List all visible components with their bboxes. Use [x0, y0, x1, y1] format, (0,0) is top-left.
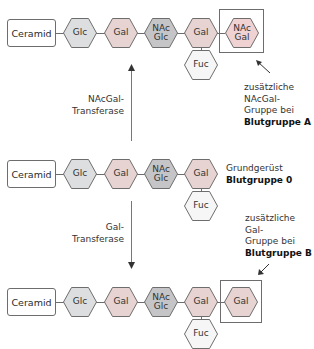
- note-blood-group-label: Blutgruppe 0: [226, 175, 292, 185]
- gal-hexagon: Gal: [224, 287, 258, 317]
- ceramid-label: Ceramid: [11, 28, 51, 39]
- glycosidic-bond: [217, 33, 225, 34]
- glc-hexagon: Glc: [63, 159, 97, 189]
- nacgal-hexagon: NAcGal: [225, 18, 259, 48]
- note-blood-group-label: Blutgruppe B: [245, 248, 312, 258]
- fuc-hexagon: Fuc: [184, 191, 218, 221]
- note-text: NAcGal-: [244, 94, 311, 106]
- sugar-label: Gal: [194, 297, 209, 307]
- note-text: Grundgerüst: [226, 163, 292, 175]
- nacglc-hexagon: NAcGlc: [144, 287, 178, 317]
- sugar-label: Glc: [73, 28, 87, 38]
- sugar-label: Fuc: [193, 329, 208, 339]
- ceramid-label: Ceramid: [11, 297, 51, 308]
- note-text: zusätzliche: [244, 82, 311, 94]
- sugar-label: Gal: [114, 297, 129, 307]
- fuc-hexagon: Fuc: [184, 50, 218, 80]
- ceramid-box: Ceramid: [7, 160, 56, 188]
- ceramid-label: Ceramid: [11, 169, 51, 180]
- sugar-label: Fuc: [193, 201, 208, 211]
- enzyme-label-b: Gal- Transferase: [50, 222, 124, 245]
- sugar-label: Gal: [234, 297, 249, 307]
- sugar-label: Gal: [194, 28, 209, 38]
- note-text: Gruppe bei: [245, 236, 312, 248]
- note-blood-group-0: Grundgerüst Blutgruppe 0: [226, 163, 292, 186]
- enzyme-text: NAcGal-: [50, 94, 124, 106]
- nacglc-hexagon: NAcGlc: [144, 18, 178, 48]
- gal-hexagon: Gal: [184, 287, 218, 317]
- arrow-up-icon: [128, 64, 135, 71]
- sugar-label: Glc: [73, 297, 87, 307]
- note-text: Gruppe bei: [244, 105, 311, 117]
- enzyme-text: Transferase: [50, 106, 124, 118]
- transferase-a-arrow: [131, 68, 132, 141]
- gal-hexagon: Gal: [104, 18, 138, 48]
- note-text: zusätzliche: [245, 213, 312, 225]
- sugar-label: Glc: [73, 169, 87, 179]
- note-blood-group-b: zusätzliche Gal- Gruppe bei Blutgruppe B: [245, 213, 312, 259]
- sugar-label: Gal: [194, 169, 209, 179]
- glc-hexagon: Glc: [63, 18, 97, 48]
- transferase-b-arrow: [131, 201, 132, 263]
- fuc-hexagon: Fuc: [184, 319, 218, 349]
- sugar-label: Glc: [154, 174, 168, 184]
- ceramid-box: Ceramid: [7, 288, 56, 316]
- gal-hexagon: Gal: [104, 159, 138, 189]
- gal-hexagon: Gal: [184, 159, 218, 189]
- pointer-arrow-icon: [256, 262, 272, 278]
- enzyme-text: Transferase: [50, 234, 124, 246]
- sugar-label: Fuc: [193, 60, 208, 70]
- note-blood-group-a: zusätzliche NAcGal- Gruppe bei Blutgrupp…: [244, 82, 311, 128]
- nacglc-hexagon: NAcGlc: [144, 159, 178, 189]
- sugar-label: Gal: [114, 28, 129, 38]
- note-blood-group-label: Blutgruppe A: [244, 117, 311, 127]
- note-text: Gal-: [245, 225, 312, 237]
- sugar-label: Glc: [154, 302, 168, 312]
- arrow-down-icon: [128, 262, 135, 269]
- sugar-label: Gal: [235, 33, 250, 43]
- enzyme-label-a: NAcGal- Transferase: [50, 94, 124, 117]
- enzyme-text: Gal-: [50, 222, 124, 234]
- pointer-arrow-icon: [254, 58, 274, 78]
- sugar-label: Glc: [154, 33, 168, 43]
- gal-hexagon: Gal: [104, 287, 138, 317]
- gal-hexagon: Gal: [184, 18, 218, 48]
- glc-hexagon: Glc: [63, 287, 97, 317]
- ceramid-box: Ceramid: [7, 19, 56, 47]
- sugar-label: Gal: [114, 169, 129, 179]
